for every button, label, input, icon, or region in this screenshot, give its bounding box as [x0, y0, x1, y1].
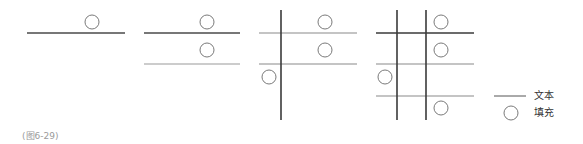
fill-circle-icon — [434, 43, 448, 57]
fill-circle-icon — [318, 43, 332, 57]
panel-3 — [259, 10, 357, 120]
legend-circle-icon — [504, 106, 518, 120]
fill-circle-icon — [318, 15, 332, 29]
fill-circle-icon — [85, 15, 99, 29]
layout-diagram — [0, 0, 583, 144]
fill-circle-icon — [434, 15, 448, 29]
panel-2 — [144, 15, 240, 64]
fill-circle-icon — [262, 70, 276, 84]
legend — [494, 96, 526, 120]
figure-caption: (图6-29) — [22, 129, 58, 142]
panel-4 — [376, 10, 474, 120]
panel-1 — [27, 15, 125, 33]
fill-circle-icon — [378, 70, 392, 84]
legend-circle-label: 填充 — [534, 107, 554, 119]
fill-circle-icon — [200, 43, 214, 57]
fill-circle-icon — [434, 101, 448, 115]
legend-line-label: 文本 — [534, 90, 554, 102]
fill-circle-icon — [200, 15, 214, 29]
